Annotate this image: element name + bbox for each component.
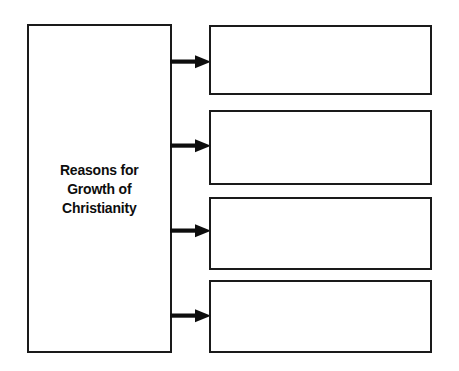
main-concept-label: Reasons for Growth of Christianity: [60, 160, 139, 217]
right-arrow-icon: [170, 53, 211, 71]
right-arrow-icon: [170, 307, 211, 325]
answer-box-1[interactable]: [209, 25, 432, 95]
answer-box-2-text: [211, 112, 430, 124]
main-concept-box: Reasons for Growth of Christianity: [27, 24, 172, 353]
graphic-organizer-diagram: Reasons for Growth of Christianity: [0, 0, 459, 371]
answer-box-4-text: [211, 282, 430, 294]
right-arrow-icon: [170, 222, 211, 240]
answer-box-2[interactable]: [209, 110, 432, 185]
right-arrow-icon: [170, 137, 211, 155]
answer-box-1-text: [211, 27, 430, 39]
answer-box-3-text: [211, 199, 430, 211]
answer-box-3[interactable]: [209, 197, 432, 270]
answer-box-4[interactable]: [209, 280, 432, 353]
